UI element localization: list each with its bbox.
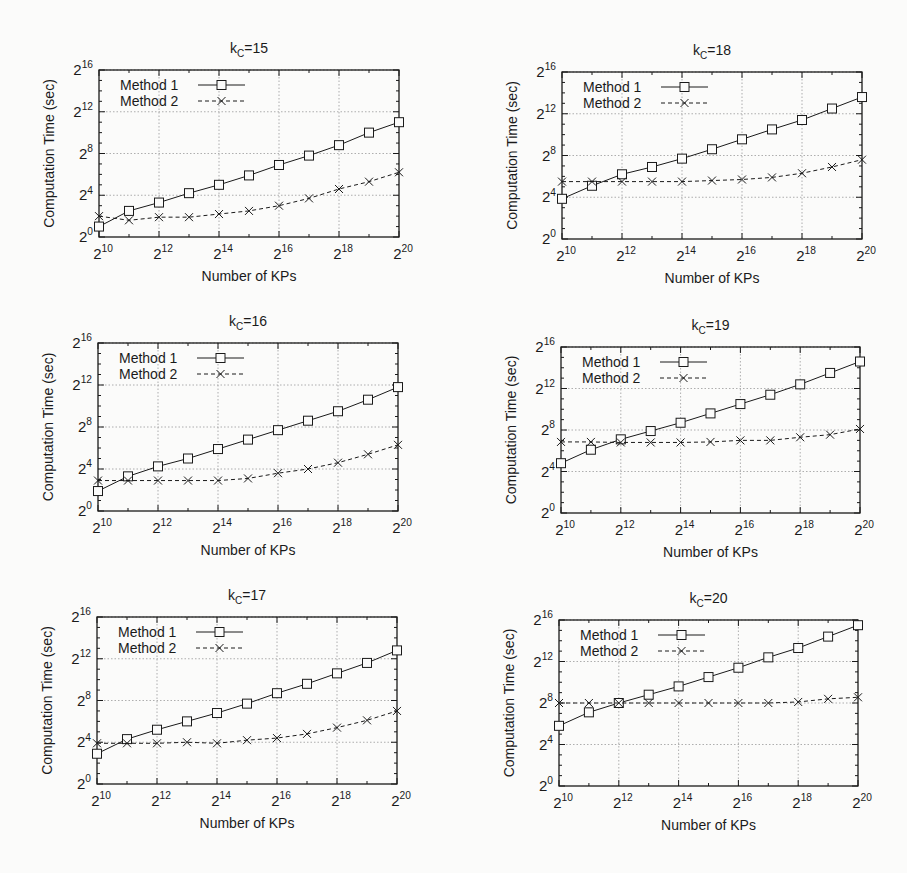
legend: Method 1Method 2 [580, 627, 705, 659]
x-tick-label: 218 [792, 792, 812, 811]
x-tick-label: 220 [392, 517, 412, 536]
square-marker [557, 459, 566, 468]
x-marker [363, 716, 371, 724]
legend-label: Method 1 [118, 624, 177, 640]
square-marker-icon [216, 354, 225, 363]
y-tick-label: 20 [542, 228, 556, 247]
square-marker-icon [677, 631, 686, 640]
square-marker [274, 426, 283, 435]
x-tick-label: 214 [676, 245, 696, 264]
y-tick-label: 216 [535, 336, 555, 355]
y-tick-label: 28 [79, 143, 93, 162]
x-tick-label: 220 [856, 245, 876, 264]
x-tick-label: 212 [615, 519, 635, 538]
square-marker [304, 416, 313, 425]
square-marker [706, 409, 715, 418]
y-tick-label: 20 [541, 502, 555, 521]
y-tick-label: 28 [541, 419, 555, 438]
x-axis-label: Number of KPs [663, 544, 758, 560]
y-tick-label: 212 [535, 378, 555, 397]
square-marker [826, 368, 835, 377]
x-tick-label: 212 [153, 243, 173, 262]
y-axis-label: Computation Time (sec) [41, 79, 57, 228]
legend-label: Method 2 [582, 370, 641, 386]
series-line [98, 445, 398, 481]
x-tick-label: 212 [151, 790, 171, 809]
square-marker [124, 472, 133, 481]
x-axis-label: Number of KPs [202, 268, 297, 284]
y-axis-label: Computation Time (sec) [40, 353, 56, 502]
x-tick-label: 214 [675, 519, 695, 538]
x-tick-label: 216 [271, 790, 291, 809]
square-marker [678, 154, 687, 163]
square-marker [828, 104, 837, 113]
y-tick-label: 20 [77, 773, 91, 792]
square-marker-icon [215, 628, 224, 637]
series-method-2 [557, 425, 864, 446]
square-marker [155, 198, 164, 207]
chart-title: kC=18 [693, 42, 731, 61]
x-tick-label: 216 [733, 792, 753, 811]
x-marker [796, 433, 804, 441]
square-marker [184, 454, 193, 463]
x-tick-label: 210 [93, 243, 113, 262]
square-marker [558, 194, 567, 203]
y-tick-label: 216 [71, 606, 91, 625]
square-marker [245, 171, 254, 180]
x-tick-label: 218 [331, 790, 351, 809]
square-marker [183, 717, 192, 726]
y-tick-label: 28 [542, 145, 556, 164]
series-method-2 [94, 441, 402, 485]
square-marker [708, 145, 717, 154]
x-marker-icon [678, 647, 686, 655]
y-axis-label: Computation Time (sec) [503, 356, 519, 505]
y-axis-label: Computation Time (sec) [39, 626, 55, 775]
series-method-2 [558, 156, 866, 186]
square-marker [244, 435, 253, 444]
square-marker [644, 690, 653, 699]
square-marker [618, 170, 627, 179]
square-marker [858, 93, 867, 102]
chart-title: kC=15 [230, 40, 268, 59]
y-tick-label: 24 [79, 185, 93, 204]
square-marker [794, 644, 803, 653]
x-tick-label: 210 [92, 517, 112, 536]
x-marker [707, 438, 715, 446]
y-tick-label: 212 [72, 374, 92, 393]
x-marker [303, 730, 311, 738]
x-tick-label: 214 [213, 243, 233, 262]
square-marker [555, 721, 564, 730]
x-tick-label: 218 [333, 243, 353, 262]
chart-panel: kC=16202428212216210212214216218220Numbe… [40, 313, 412, 558]
legend-label: Method 2 [583, 95, 642, 111]
y-tick-label: 216 [533, 609, 553, 628]
y-tick-label: 212 [533, 651, 553, 670]
square-marker [736, 400, 745, 409]
series-line [561, 429, 860, 442]
square-marker [363, 658, 372, 667]
legend-label: Method 2 [580, 643, 639, 659]
square-marker [365, 128, 374, 137]
chart-panel: kC=20202428212216210212214216218220Numbe… [501, 590, 872, 833]
legend: Method 1Method 2 [582, 354, 707, 386]
legend-label: Method 2 [120, 93, 179, 109]
x-tick-label: 212 [613, 792, 633, 811]
chart-panel: kC=17202428212216210212214216218220Numbe… [39, 587, 411, 831]
chart-title: kC=19 [692, 317, 730, 336]
x-tick-label: 210 [553, 792, 573, 811]
legend: Method 1Method 2 [119, 350, 244, 382]
y-tick-label: 24 [78, 458, 92, 477]
series-line [97, 711, 397, 743]
figure-grid: kC=15202428212216210212214216218220Numbe… [0, 0, 907, 873]
x-axis-label: Number of KPs [200, 815, 295, 831]
legend-label: Method 2 [118, 640, 177, 656]
square-marker [704, 673, 713, 682]
y-tick-label: 20 [78, 500, 92, 519]
x-tick-label: 214 [211, 790, 231, 809]
chart-panel: kC=19202428212216210212214216218220Numbe… [503, 317, 874, 560]
square-marker [153, 725, 162, 734]
x-marker [828, 163, 836, 171]
square-marker [824, 632, 833, 641]
x-tick-label: 218 [796, 245, 816, 264]
square-marker [646, 427, 655, 436]
